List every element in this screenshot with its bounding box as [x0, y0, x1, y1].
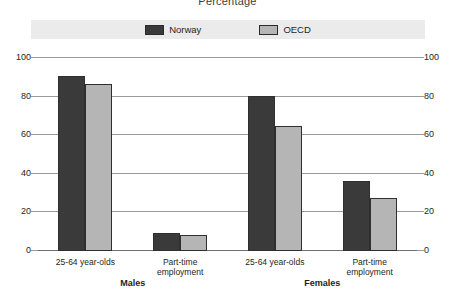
- category-axis-labels: 25-64 year-oldsPart-time employment25-64…: [38, 253, 417, 291]
- tick-dash-right: [417, 134, 424, 135]
- tick-dash-left: [31, 173, 38, 174]
- bar-oecd-0: [85, 84, 112, 251]
- y-axis-tick-left: 40: [21, 169, 31, 178]
- y-axis-tick-left: 60: [21, 130, 31, 139]
- category-label: 25-64 year-olds: [40, 257, 130, 267]
- bar-oecd-3: [370, 198, 397, 251]
- y-axis-tick-right: 80: [424, 92, 434, 101]
- group-label-males: Males: [88, 278, 178, 288]
- legend-item-norway: Norway: [145, 25, 201, 35]
- category-label: 25-64 year-olds: [230, 257, 320, 267]
- bar-norway-0: [58, 76, 85, 251]
- tick-dash-left: [31, 134, 38, 135]
- y-axis-tick-left: 80: [21, 92, 31, 101]
- y-axis-tick-left: 20: [21, 207, 31, 216]
- bar-norway-3: [343, 181, 370, 251]
- tick-dash-left: [31, 96, 38, 97]
- chart-title: Percentage: [0, 0, 455, 7]
- tick-dash-right: [417, 211, 424, 212]
- tick-dash-left: [31, 211, 38, 212]
- plot-area: 100100808060604040202000: [38, 57, 417, 250]
- tick-dash-right: [417, 250, 424, 251]
- y-axis-tick-right: 60: [424, 130, 434, 139]
- tick-dash-left: [31, 57, 38, 58]
- tick-dash-right: [417, 173, 424, 174]
- legend-label: Norway: [169, 25, 201, 35]
- y-axis-tick-right: 100: [424, 53, 439, 62]
- category-label: Part-time employment: [325, 257, 415, 277]
- y-axis-tick-right: 20: [424, 207, 434, 216]
- legend-label: OECD: [283, 25, 310, 35]
- bar-oecd-2: [275, 126, 302, 251]
- legend-swatch-icon: [145, 25, 164, 35]
- group-label-females: Females: [277, 278, 367, 288]
- y-axis-tick-left: 0: [26, 246, 31, 255]
- bar-oecd-1: [180, 235, 207, 251]
- category-label: Part-time employment: [135, 257, 225, 277]
- chart-legend: NorwayOECD: [31, 20, 425, 39]
- tick-dash-right: [417, 96, 424, 97]
- y-axis-tick-right: 0: [424, 246, 429, 255]
- bar-norway-1: [153, 233, 180, 251]
- chart-container: Percentage NorwayOECD 100100808060604040…: [0, 0, 455, 291]
- tick-dash-right: [417, 57, 424, 58]
- bars-layer: [38, 57, 417, 250]
- tick-dash-left: [31, 250, 38, 251]
- legend-swatch-icon: [259, 25, 278, 35]
- legend-item-oecd: OECD: [259, 25, 310, 35]
- bar-norway-2: [248, 96, 275, 251]
- y-axis-tick-right: 40: [424, 169, 434, 178]
- y-axis-tick-left: 100: [16, 53, 31, 62]
